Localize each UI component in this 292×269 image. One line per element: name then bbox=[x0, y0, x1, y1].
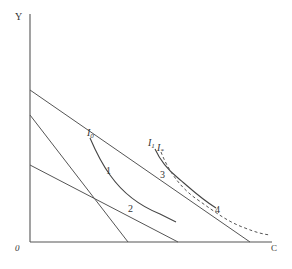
indifference-curve-istar bbox=[161, 152, 270, 235]
point-3-label: 3 bbox=[160, 170, 165, 180]
point-1-label: 1 bbox=[106, 166, 111, 176]
budget-line-steep bbox=[30, 115, 128, 242]
istar-label-subscript: * bbox=[160, 147, 164, 155]
x-axis-label: C bbox=[271, 244, 277, 253]
indifference-curve-diagram: Y 0 C I0 I1 I* 1 2 3 4 bbox=[0, 0, 292, 269]
point-2-label: 2 bbox=[128, 204, 133, 214]
point-4-label: 4 bbox=[215, 205, 220, 215]
diagram-canvas bbox=[0, 0, 292, 269]
budget-line-top bbox=[30, 90, 250, 242]
istar-label: I* bbox=[157, 143, 164, 155]
i1-label: I1 bbox=[148, 138, 155, 150]
i0-label: I0 bbox=[87, 128, 94, 140]
i0-label-subscript: 0 bbox=[90, 132, 94, 140]
y-axis-label: Y bbox=[15, 12, 22, 22]
origin-label: 0 bbox=[15, 244, 20, 253]
i1-label-subscript: 1 bbox=[151, 142, 155, 150]
